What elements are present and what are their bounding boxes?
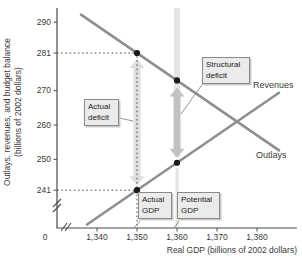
outlays-line-label: Outlays bbox=[256, 150, 287, 160]
actual-gdp-leader bbox=[134, 221, 140, 228]
chart: Outlays, revenues, and budget balance (b… bbox=[0, 0, 302, 266]
x-tick-label: 1,350 bbox=[126, 232, 147, 242]
y-axis-title-line1: Outlays, revenues, and budget balance bbox=[2, 2, 13, 222]
actual-deficit-leader bbox=[119, 118, 133, 121]
actual-gdp-label: Actual GDP bbox=[138, 192, 172, 219]
actual-deficit-label: Actual deficit bbox=[84, 99, 119, 126]
data-point bbox=[174, 77, 180, 83]
y-tick-label: 241 bbox=[21, 185, 51, 195]
structural-deficit-label: Structural deficit bbox=[202, 57, 250, 84]
y-tick-label: 281 bbox=[21, 48, 51, 58]
revenues-line-label: Revenues bbox=[253, 80, 294, 90]
x-axis-title: Real GDP (billions of 2002 dollars) bbox=[167, 245, 297, 255]
plot-canvas bbox=[0, 0, 302, 266]
y-tick-label: 270 bbox=[21, 85, 51, 95]
structural-deficit-arrow bbox=[170, 87, 185, 157]
data-point bbox=[134, 50, 140, 56]
potential-gdp-label: Potential GDP bbox=[177, 192, 220, 219]
data-point bbox=[174, 160, 180, 166]
y-tick-label: 250 bbox=[21, 154, 51, 164]
y-tick-label: 260 bbox=[21, 120, 51, 130]
x-tick-label: 1,370 bbox=[206, 232, 227, 242]
x-tick-label: 0 bbox=[43, 232, 48, 242]
x-tick-label: 1,360 bbox=[166, 232, 187, 242]
x-tick-label: 1,380 bbox=[246, 232, 267, 242]
x-tick-label: 1,340 bbox=[86, 232, 107, 242]
y-tick-label: 290 bbox=[21, 17, 51, 27]
